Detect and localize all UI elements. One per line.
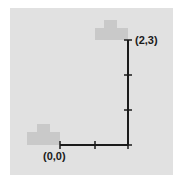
- end-coordinate-label: (2,3): [135, 35, 158, 46]
- grid-path: [0, 0, 178, 184]
- start-coordinate-label: (0,0): [43, 151, 66, 162]
